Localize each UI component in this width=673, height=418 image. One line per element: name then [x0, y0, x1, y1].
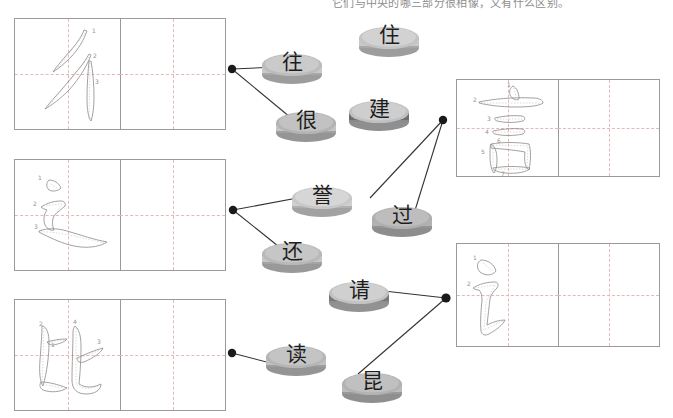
- character-token-zhu[interactable]: 住: [355, 18, 423, 60]
- practice-cell-filled[interactable]: [15, 300, 120, 410]
- practice-cell-filled[interactable]: [15, 160, 120, 270]
- grid-guide-horizontal: [120, 74, 225, 75]
- connector-line-yanj-qing: [384, 291, 446, 298]
- practice-box-character-bi[interactable]: 1 2 3 4: [14, 299, 226, 411]
- token-character: 请: [325, 273, 393, 303]
- practice-box-radical-yan-simplified[interactable]: 1 2: [456, 243, 660, 347]
- connector-node-yanj: [441, 293, 450, 302]
- grid-guide-horizontal: [15, 355, 120, 356]
- token-character: 很: [272, 103, 340, 133]
- connector-node-chuo: [229, 206, 237, 214]
- practice-cell-empty[interactable]: [120, 19, 225, 129]
- practice-cell-empty[interactable]: [558, 244, 659, 346]
- practice-cell-filled[interactable]: [457, 80, 558, 176]
- grid-guide-horizontal: [120, 215, 225, 216]
- connector-node-bi: [228, 349, 236, 357]
- instruction-text: 它们与中央的哪三部分很相像，又有什么区别。: [332, 0, 672, 10]
- practice-box-radical-yan-full[interactable]: 1 2 3 4 5 6 7: [456, 79, 660, 177]
- token-character: 还: [258, 234, 326, 264]
- practice-cell-empty[interactable]: [558, 80, 659, 176]
- connector-node-chi: [228, 65, 236, 73]
- practice-box-radical-chi[interactable]: 1 2 3: [14, 18, 226, 130]
- grid-guide-horizontal: [457, 295, 558, 296]
- connector-node-yan: [439, 116, 447, 124]
- token-character: 建: [345, 92, 413, 122]
- grid-guide-horizontal: [558, 128, 659, 129]
- grid-guide-horizontal: [558, 295, 659, 296]
- token-character: 住: [355, 18, 423, 48]
- character-token-kun[interactable]: 昆: [338, 364, 406, 406]
- grid-guide-horizontal: [15, 74, 120, 75]
- grid-guide-horizontal: [15, 215, 120, 216]
- worksheet-canvas: 它们与中央的哪三部分很相像，又有什么区别。: [0, 0, 673, 418]
- practice-cell-empty[interactable]: [120, 160, 225, 270]
- practice-cell-filled[interactable]: [457, 244, 558, 346]
- practice-cell-empty[interactable]: [120, 300, 225, 410]
- grid-guide-horizontal: [120, 355, 225, 356]
- character-token-yu[interactable]: 誉: [288, 178, 356, 220]
- character-token-du[interactable]: 读: [262, 337, 330, 379]
- token-character: 读: [262, 337, 330, 367]
- character-token-qing[interactable]: 请: [325, 273, 393, 315]
- token-character: 过: [368, 198, 436, 228]
- character-token-guo[interactable]: 过: [368, 198, 436, 240]
- token-character: 誉: [288, 178, 356, 208]
- character-token-hai[interactable]: 还: [258, 234, 326, 276]
- character-token-jian[interactable]: 建: [345, 92, 413, 134]
- character-token-wang[interactable]: 往: [258, 45, 326, 87]
- character-token-hen[interactable]: 很: [272, 103, 340, 145]
- practice-box-radical-chuo[interactable]: 1 2 3: [14, 159, 226, 271]
- grid-guide-horizontal: [457, 128, 558, 129]
- token-character: 往: [258, 45, 326, 75]
- token-character: 昆: [338, 364, 406, 394]
- practice-cell-filled[interactable]: [15, 19, 120, 129]
